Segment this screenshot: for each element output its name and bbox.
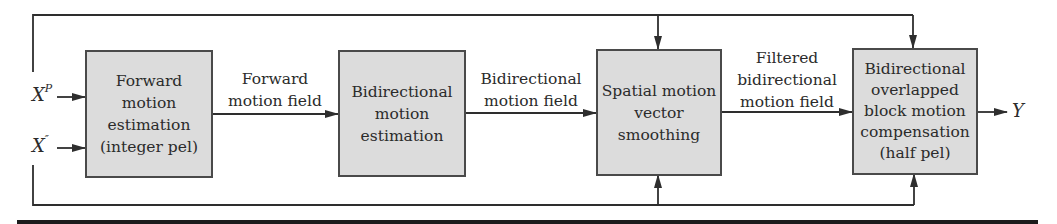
block-bidirectional-obmc: Bidirectional overlapped block motion co…	[852, 48, 978, 175]
block-forward-motion-estimation: Forward motion estimation (integer pel)	[85, 50, 213, 178]
input-symbol: X	[32, 135, 45, 156]
block-label: Spatial motion vector smoothing	[602, 80, 717, 146]
input-superscript: P	[45, 82, 52, 95]
block-spatial-motion-vector-smoothing: Spatial motion vector smoothing	[596, 49, 722, 176]
output-signal-y: Y	[1012, 100, 1024, 121]
input-signal-xp: XP	[32, 84, 52, 105]
block-bidirectional-motion-estimation: Bidirectional motion estimation	[338, 50, 466, 177]
input-signal-xpp: X″	[32, 135, 49, 156]
input-symbol: X	[32, 84, 45, 105]
block-label: Forward motion estimation (integer pel)	[100, 70, 198, 158]
edge-label-filtered-bidirectional-motion-field: Filtered bidirectional motion field	[722, 47, 852, 113]
output-symbol: Y	[1012, 100, 1024, 121]
input-superscript: ″	[45, 133, 49, 146]
edge-label-forward-motion-field: Forward motion field	[214, 68, 336, 112]
edge-label-bidirectional-motion-field: Bidirectional motion field	[466, 68, 596, 112]
block-label: Bidirectional overlapped block motion co…	[860, 59, 969, 164]
block-label: Bidirectional motion estimation	[351, 81, 452, 147]
page-rule-bar	[17, 220, 1038, 224]
